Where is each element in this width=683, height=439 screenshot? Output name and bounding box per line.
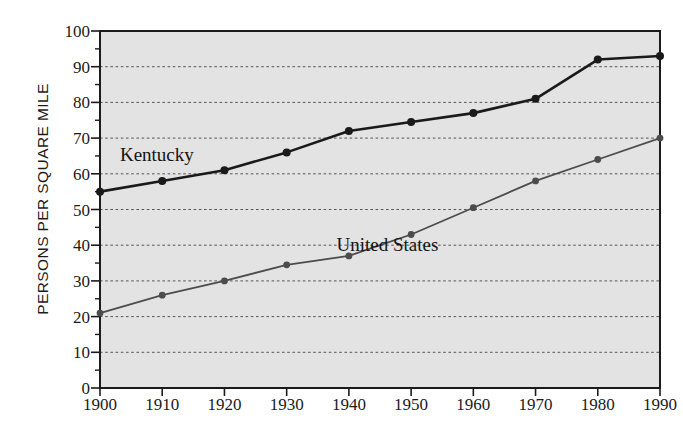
x-axis-tick-label-1950: 1950 bbox=[376, 396, 446, 413]
data-point-united-states-1960 bbox=[470, 204, 477, 211]
x-axis-tick-label-1940: 1940 bbox=[314, 396, 384, 413]
x-axis-tick-label-1960: 1960 bbox=[438, 396, 508, 413]
data-point-united-states-1990 bbox=[657, 135, 664, 142]
data-point-kentucky-1970 bbox=[532, 95, 540, 103]
x-axis-tick-label-1990: 1990 bbox=[625, 396, 683, 413]
x-axis-tick-label-1980: 1980 bbox=[563, 396, 633, 413]
x-axis-tick-label-group: 1900191019201930194019501960197019801990 bbox=[0, 396, 683, 426]
data-point-kentucky-1990 bbox=[656, 52, 664, 60]
data-point-kentucky-1930 bbox=[283, 148, 291, 156]
x-axis-tick-label-1900: 1900 bbox=[65, 396, 135, 413]
data-point-united-states-1930 bbox=[283, 261, 290, 268]
data-point-united-states-1980 bbox=[594, 156, 601, 163]
series-label-united-states: United States bbox=[336, 234, 438, 255]
data-point-kentucky-1910 bbox=[158, 177, 166, 185]
data-point-kentucky-1940 bbox=[345, 127, 353, 135]
data-point-kentucky-1960 bbox=[469, 109, 477, 117]
x-axis-tick-label-1970: 1970 bbox=[501, 396, 571, 413]
series-label-kentucky: Kentucky bbox=[120, 144, 194, 165]
persons-per-square-mile-line-chart: PERSONS PER SQUARE MILE 1009080706050403… bbox=[0, 0, 683, 439]
data-point-kentucky-1950 bbox=[407, 118, 415, 126]
data-point-kentucky-1980 bbox=[594, 56, 602, 64]
plot-area: KentuckyUnited States bbox=[0, 0, 683, 439]
x-axis-tick-label-1910: 1910 bbox=[127, 396, 197, 413]
data-point-united-states-1900 bbox=[97, 310, 104, 317]
data-point-united-states-1920 bbox=[221, 278, 228, 285]
data-point-united-states-1910 bbox=[159, 292, 166, 299]
data-point-united-states-1970 bbox=[532, 178, 539, 185]
x-axis-tick-label-1920: 1920 bbox=[189, 396, 259, 413]
x-axis-tick-label-1930: 1930 bbox=[252, 396, 322, 413]
data-point-kentucky-1900 bbox=[96, 188, 104, 196]
data-point-kentucky-1920 bbox=[220, 166, 228, 174]
